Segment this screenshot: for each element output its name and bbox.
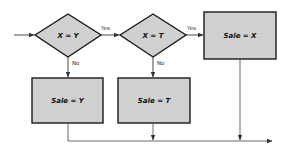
process-x-label: Sale = X xyxy=(223,32,257,40)
no-label-2: No xyxy=(157,60,165,66)
process-sale-x: Sale = X xyxy=(204,12,276,59)
yes-label-1: Yes xyxy=(100,25,110,31)
process-sale-t: Sale = T xyxy=(118,78,190,123)
process-sale-y: Sale = Y xyxy=(32,78,103,123)
decision-x-equals-t: X = T xyxy=(120,14,186,57)
process-y-label: Sale = Y xyxy=(51,97,85,105)
no-label-1: No xyxy=(72,60,80,66)
decision-2-label: X = T xyxy=(142,32,165,40)
yes-label-2: Yes xyxy=(186,25,196,31)
process-t-label: Sale = T xyxy=(138,97,172,105)
flowchart: X = Y Yes X = T Yes Sale = X No No Sale … xyxy=(0,0,290,150)
decision-1-label: X = Y xyxy=(56,32,79,40)
decision-x-equals-y: X = Y xyxy=(35,14,101,57)
